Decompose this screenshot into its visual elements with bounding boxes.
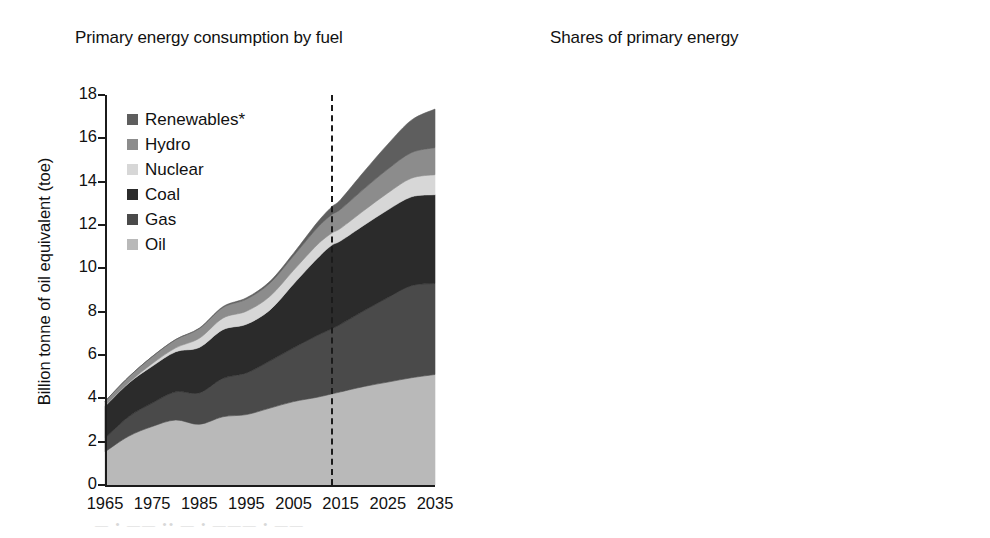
legend-item-coal: Coal bbox=[127, 182, 245, 207]
y-tick-label-4: 4 bbox=[88, 387, 97, 406]
y-tick-0 bbox=[98, 484, 105, 486]
legend-label-gas: Gas bbox=[145, 210, 176, 230]
y-tick-label-8: 8 bbox=[88, 301, 97, 320]
y-tick-12 bbox=[98, 224, 105, 226]
legend-label-oil: Oil bbox=[145, 235, 166, 255]
y-tick-label-14: 14 bbox=[79, 171, 97, 190]
legend-item-oil: Oil bbox=[127, 232, 245, 257]
right-chart-title: Shares of primary energy bbox=[550, 28, 990, 48]
legend-item-hydro: Hydro bbox=[127, 132, 245, 157]
legend-swatch-oil bbox=[127, 239, 138, 250]
y-tick-6 bbox=[98, 354, 105, 356]
left-chart-panel: Primary energy consumption by fuel Billi… bbox=[0, 0, 495, 538]
y-tick-label-12: 12 bbox=[79, 214, 97, 233]
x-tick-label-2035: 2035 bbox=[417, 494, 454, 513]
right-chart-panel: Shares of primary energy 50%40%30%20%10%… bbox=[495, 0, 990, 538]
y-tick-label-6: 6 bbox=[88, 344, 97, 363]
y-tick-14 bbox=[98, 181, 105, 183]
left-chart-legend: Renewables* Hydro Nuclear Coal Gas Oil bbox=[127, 107, 245, 257]
legend-item-nuclear: Nuclear bbox=[127, 157, 245, 182]
x-tick-label-2005: 2005 bbox=[275, 494, 312, 513]
legend-swatch-nuclear bbox=[127, 164, 138, 175]
y-tick-label-2: 2 bbox=[88, 431, 97, 450]
legend-swatch-coal bbox=[127, 189, 138, 200]
legend-item-gas: Gas bbox=[127, 207, 245, 232]
x-tick-label-2025: 2025 bbox=[369, 494, 406, 513]
legend-swatch-gas bbox=[127, 214, 138, 225]
left-chart-title: Primary energy consumption by fuel bbox=[75, 28, 495, 48]
y-tick-16 bbox=[98, 137, 105, 139]
y-tick-18 bbox=[98, 94, 105, 96]
y-tick-4 bbox=[98, 397, 105, 399]
y-tick-2 bbox=[98, 441, 105, 443]
x-tick-label-1975: 1975 bbox=[134, 494, 171, 513]
x-tick-label-1965: 1965 bbox=[87, 494, 124, 513]
left-chart-y-tick-labels: 181614121086420 bbox=[35, 95, 97, 485]
legend-swatch-hydro bbox=[127, 139, 138, 150]
x-tick-label-2015: 2015 bbox=[322, 494, 359, 513]
left-chart-plot-area: Renewables* Hydro Nuclear Coal Gas Oil bbox=[105, 95, 435, 485]
y-tick-label-10: 10 bbox=[79, 257, 97, 276]
legend-swatch-renewables bbox=[127, 114, 138, 125]
y-tick-label-18: 18 bbox=[79, 84, 97, 103]
x-tick-label-1995: 1995 bbox=[228, 494, 265, 513]
x-tick-label-1985: 1985 bbox=[181, 494, 218, 513]
legend-item-renewables: Renewables* bbox=[127, 107, 245, 132]
y-tick-label-0: 0 bbox=[88, 474, 97, 493]
y-tick-10 bbox=[98, 267, 105, 269]
y-tick-8 bbox=[98, 311, 105, 313]
left-chart-x-axis-line bbox=[105, 485, 435, 487]
left-chart-forecast-divider bbox=[331, 95, 333, 485]
legend-label-hydro: Hydro bbox=[145, 135, 190, 155]
left-chart-y-axis-line bbox=[105, 95, 107, 485]
legend-label-nuclear: Nuclear bbox=[145, 160, 204, 180]
legend-label-renewables: Renewables* bbox=[145, 110, 245, 130]
y-tick-label-16: 16 bbox=[79, 127, 97, 146]
legend-label-coal: Coal bbox=[145, 185, 180, 205]
scan-bleed-artifact: — • —— •• — • ——— • —— bbox=[95, 517, 495, 533]
